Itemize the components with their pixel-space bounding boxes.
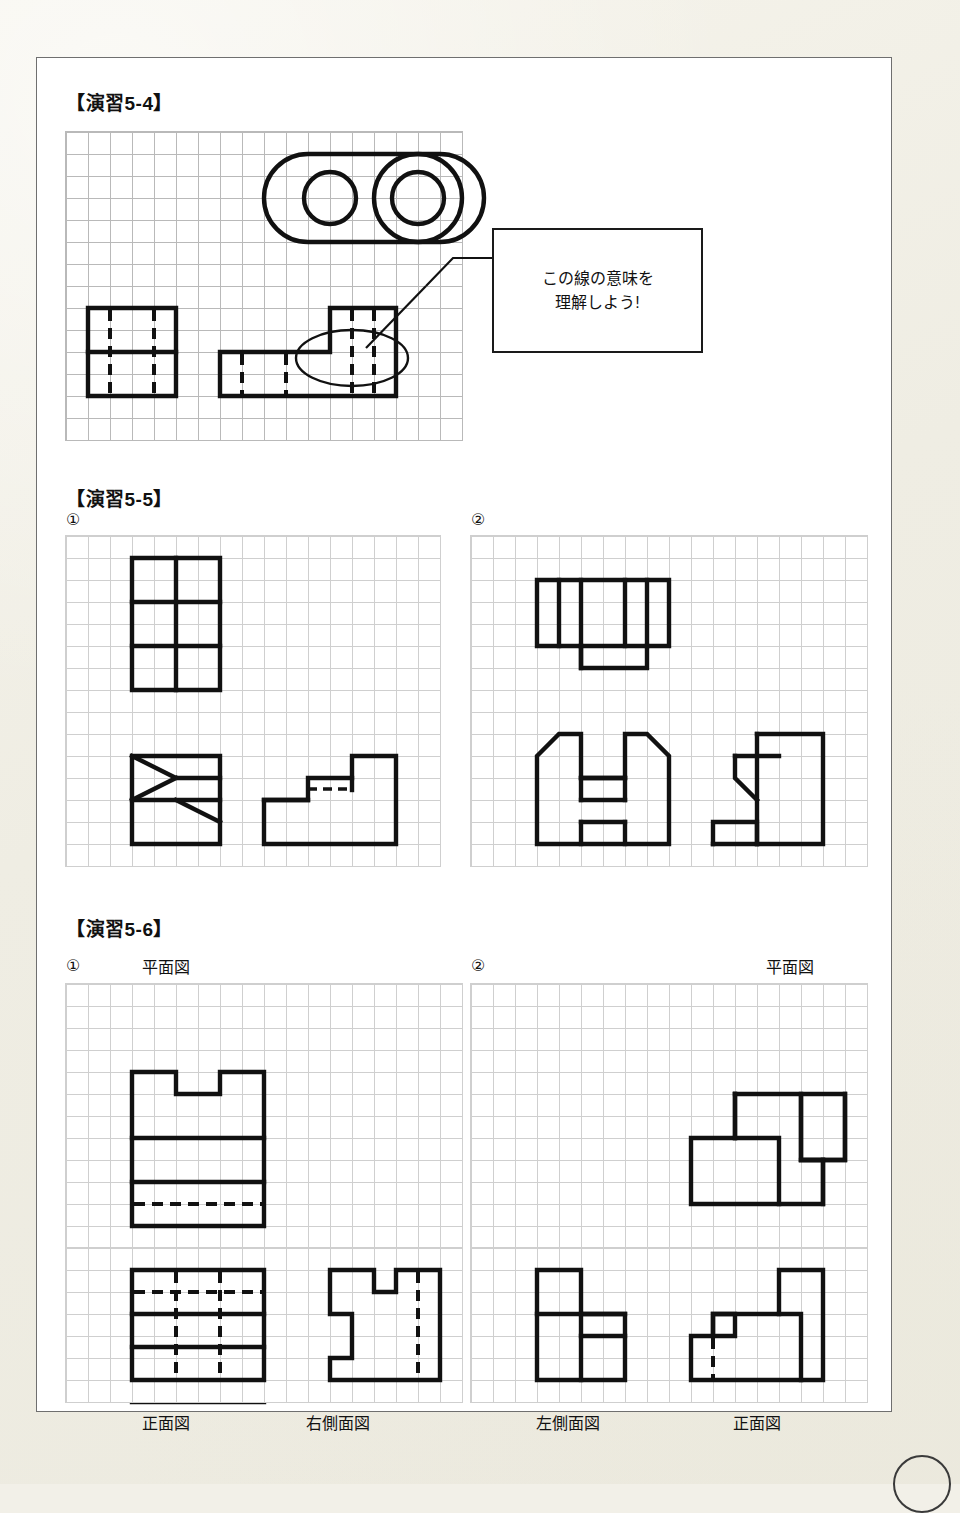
item-number-ex56-1: ① [66,956,80,975]
view-label-ex56-2-plan: 平面図 [750,954,830,978]
view-label-ex56-1-front: 正面図 [126,1410,206,1434]
worksheet-page: 【演習5-4】 [36,57,892,1412]
view-label-ex56-1-plan: 平面図 [126,954,206,978]
drawing-ex55-1 [66,536,440,866]
page-number-bubble [893,1455,951,1513]
view-label-ex56-2-front: 正面図 [717,1410,797,1434]
section-title-ex54: 【演習5-4】 [66,88,173,115]
view-label-ex56-1-side: 右側面図 [290,1410,386,1434]
drawing-ex54 [66,132,462,440]
callout-text: この線の意味を 理解しよう! [542,267,654,315]
drawing-ex56-1-lower [66,1248,462,1402]
item-number-ex55-1: ① [66,510,80,529]
drawing-ex56-2-lower [471,1248,867,1402]
view-label-ex56-2-left: 左側面図 [520,1410,616,1434]
drawing-ex55-2 [471,536,867,866]
callout-box-ex54: この線の意味を 理解しよう! [492,228,703,353]
item-number-ex56-2: ② [471,956,485,975]
section-title-ex55: 【演習5-5】 [66,484,173,511]
item-number-ex55-2: ② [471,510,485,529]
section-title-ex56: 【演習5-6】 [66,914,173,941]
